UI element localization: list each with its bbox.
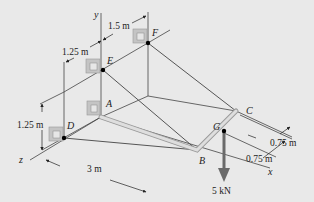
f-x-guide: [148, 96, 236, 111]
axis-label-z: z: [18, 154, 23, 165]
dim-length-db: 3 m: [87, 164, 102, 174]
dim-d-height: 1.25 m: [17, 120, 44, 130]
label-d: D: [66, 120, 75, 131]
dim-ef-spacing: 1.5 m: [108, 21, 130, 31]
label-c: C: [246, 105, 253, 116]
statics-diagram: 5 kN A B C D E F G y z x 1.5 m 1.25 m 1.…: [0, 0, 314, 202]
point-e: [101, 68, 105, 72]
label-e: E: [106, 55, 113, 66]
dim-cg: 0.75 m: [270, 138, 297, 148]
dimension-arrows: [42, 16, 290, 192]
point-d: [62, 136, 66, 140]
label-f: F: [151, 27, 159, 38]
load-arrow: [218, 131, 230, 182]
label-g: G: [213, 121, 220, 132]
ef-line: [64, 30, 170, 92]
dim-e-offset: 1.25 m: [62, 47, 89, 57]
point-f: [146, 41, 150, 45]
cable-fc: [148, 43, 236, 111]
load-label: 5 kN: [212, 186, 231, 196]
axis-label-y: y: [93, 9, 99, 20]
point-g: [222, 129, 226, 133]
dim-gb: 0.75 m: [246, 154, 273, 164]
coordinate-axes: [30, 12, 292, 168]
label-a: A: [105, 98, 113, 109]
axis-label-x: x: [267, 166, 273, 177]
label-b: B: [199, 155, 205, 166]
